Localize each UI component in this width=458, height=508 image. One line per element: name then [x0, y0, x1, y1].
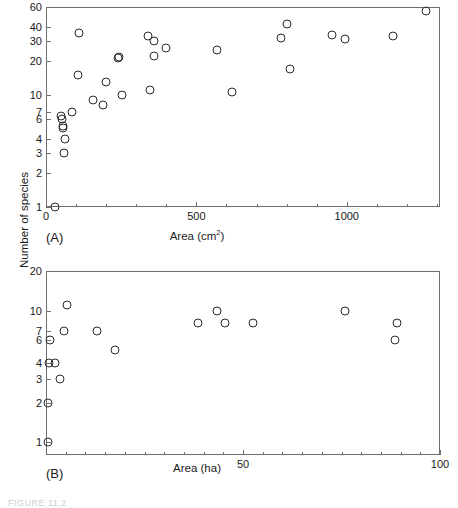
x-minor-tick-mark	[125, 452, 126, 455]
data-point-marker	[51, 203, 60, 212]
data-point-marker	[98, 101, 107, 110]
y-tick-mark	[46, 119, 51, 120]
data-point-marker	[162, 43, 171, 52]
x-minor-tick-mark	[106, 204, 107, 207]
x-minor-tick-mark	[437, 204, 438, 207]
x-minor-tick-mark	[401, 452, 402, 455]
y-tick-mark	[46, 41, 51, 42]
data-point-marker	[193, 319, 202, 328]
data-point-marker	[149, 52, 158, 61]
data-point-marker	[117, 90, 126, 99]
data-point-marker	[341, 35, 350, 44]
x-tick-mark	[347, 202, 348, 207]
data-point-marker	[213, 45, 222, 54]
data-point-marker	[228, 88, 237, 97]
x-minor-tick-mark	[361, 452, 362, 455]
x-minor-tick-mark	[166, 204, 167, 207]
x-minor-tick-mark	[105, 452, 106, 455]
x-minor-tick-mark	[164, 452, 165, 455]
data-point-marker	[115, 53, 124, 62]
y-tick-mark	[46, 7, 51, 8]
data-point-marker	[44, 398, 53, 407]
data-point-marker	[73, 70, 82, 79]
y-tick-mark	[46, 27, 51, 28]
x-minor-tick-mark	[377, 204, 378, 207]
x-tick-mark	[46, 202, 47, 207]
y-tick-label: 1	[12, 202, 42, 213]
data-point-marker	[44, 438, 53, 447]
x-minor-tick-mark	[302, 452, 303, 455]
y-tick-mark	[46, 173, 51, 174]
data-point-marker	[145, 85, 154, 94]
x-tick-mark	[440, 450, 441, 455]
data-point-marker	[102, 77, 111, 86]
x-minor-tick-mark	[204, 452, 205, 455]
panel-b: 1234671020 50100 Area (ha) (B)	[0, 254, 458, 508]
data-point-marker	[75, 29, 84, 38]
y-tick-label: 20	[12, 55, 42, 66]
data-point-marker	[150, 36, 159, 45]
plot-area-b	[46, 271, 440, 455]
x-minor-tick-mark	[342, 452, 343, 455]
data-point-marker	[93, 327, 102, 336]
y-tick-label: 2	[12, 397, 42, 408]
x-tick-mark	[243, 450, 244, 455]
y-tick-mark	[46, 331, 51, 332]
x-minor-tick-mark	[381, 452, 382, 455]
y-tick-label: 7	[12, 106, 42, 117]
data-point-marker	[389, 32, 398, 41]
x-minor-tick-mark	[226, 204, 227, 207]
data-point-marker	[390, 335, 399, 344]
y-tick-label: 30	[12, 35, 42, 46]
y-tick-label: 2	[12, 168, 42, 179]
data-point-marker	[221, 319, 230, 328]
x-minor-tick-mark	[66, 452, 67, 455]
y-tick-label: 20	[12, 266, 42, 277]
y-tick-label: 60	[12, 2, 42, 13]
x-minor-tick-mark	[145, 452, 146, 455]
x-minor-tick-mark	[317, 204, 318, 207]
y-tick-mark	[46, 139, 51, 140]
y-tick-label: 3	[12, 148, 42, 159]
panel-label-a: (A)	[46, 230, 63, 245]
x-minor-tick-mark	[287, 204, 288, 207]
x-minor-tick-mark	[263, 452, 264, 455]
data-point-marker	[45, 335, 54, 344]
y-tick-mark	[46, 153, 51, 154]
x-tick-mark	[196, 202, 197, 207]
y-tick-mark	[46, 112, 51, 113]
data-point-marker	[285, 64, 294, 73]
data-point-marker	[213, 306, 222, 315]
y-tick-label: 3	[12, 374, 42, 385]
x-tick-label: 500	[187, 211, 205, 222]
x-minor-tick-mark	[257, 204, 258, 207]
y-tick-mark	[46, 95, 51, 96]
data-point-marker	[60, 149, 69, 158]
y-tick-mark	[46, 61, 51, 62]
x-axis-label-a-suffix: )	[220, 230, 224, 242]
x-minor-tick-mark	[184, 452, 185, 455]
x-minor-tick-mark	[420, 452, 421, 455]
x-minor-tick-mark	[223, 452, 224, 455]
panel-a: 1234671020304060 05001000 Area (cm2) (A)	[0, 0, 458, 254]
x-minor-tick-mark	[76, 204, 77, 207]
y-tick-label: 10	[12, 89, 42, 100]
data-point-marker	[327, 30, 336, 39]
data-point-marker	[68, 107, 77, 116]
data-point-marker	[56, 375, 65, 384]
data-point-marker	[248, 319, 257, 328]
x-tick-label: 0	[43, 211, 49, 222]
y-tick-label: 7	[12, 326, 42, 337]
panel-label-b: (B)	[46, 466, 63, 481]
x-axis-label-b: Area (ha)	[173, 462, 221, 474]
y-tick-label: 40	[12, 21, 42, 32]
data-point-marker	[63, 301, 72, 310]
data-point-marker	[57, 112, 66, 121]
data-point-marker	[392, 319, 401, 328]
y-tick-label: 4	[12, 358, 42, 369]
y-tick-label: 4	[12, 134, 42, 145]
x-axis-label-a-text: Area (cm	[170, 230, 217, 242]
y-tick-label: 1	[12, 437, 42, 448]
data-point-marker	[60, 135, 69, 144]
x-minor-tick-mark	[322, 452, 323, 455]
